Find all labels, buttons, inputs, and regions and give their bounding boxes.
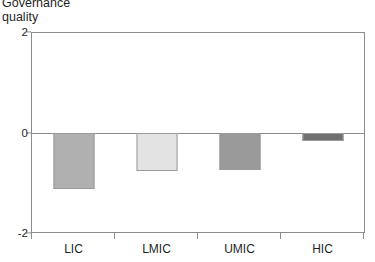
bar-lic[interactable] xyxy=(53,133,94,190)
bar-hic[interactable] xyxy=(302,133,343,142)
x-tick-mark-4 xyxy=(363,233,364,239)
x-tick-mark-1 xyxy=(114,233,115,239)
x-tick-mark-3 xyxy=(280,233,281,239)
x-tick-mark-2 xyxy=(197,233,198,239)
x-label-umic: UMIC xyxy=(198,242,281,256)
x-label-lmic: LMIC xyxy=(115,242,198,256)
bar-slot-lmic xyxy=(115,33,198,232)
bar-lmic[interactable] xyxy=(136,133,177,172)
bar-umic[interactable] xyxy=(219,133,260,171)
governance-quality-bar-chart: Governancequality 2 0 -2 LIC LMIC xyxy=(0,0,375,262)
x-label-hic: HIC xyxy=(281,242,364,256)
y-tick-label-minus2: -2 xyxy=(2,227,28,239)
x-tick-mark-0 xyxy=(31,233,32,239)
bar-series xyxy=(32,33,364,232)
chart-axis-title-line2: quality xyxy=(2,10,38,24)
y-tick-label-2: 2 xyxy=(2,26,28,38)
x-axis-ticks xyxy=(31,233,365,239)
chart-axis-title: Governancequality xyxy=(2,0,122,24)
x-axis-labels: LIC LMIC UMIC HIC xyxy=(32,242,364,256)
bar-slot-umic xyxy=(198,33,281,232)
x-label-lic: LIC xyxy=(32,242,115,256)
y-axis: 2 0 -2 xyxy=(0,32,28,233)
y-tick-label-0: 0 xyxy=(2,127,28,139)
bar-slot-hic xyxy=(281,33,364,232)
bar-slot-lic xyxy=(32,33,115,232)
chart-axis-title-line1: Governance xyxy=(2,0,70,10)
